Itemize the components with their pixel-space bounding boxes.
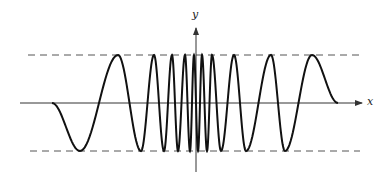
y-axis-label: y — [192, 8, 198, 21]
x-axis-label: x — [367, 95, 373, 108]
diagram-canvas: y x — [0, 0, 390, 174]
oscillation-plot — [0, 0, 390, 174]
